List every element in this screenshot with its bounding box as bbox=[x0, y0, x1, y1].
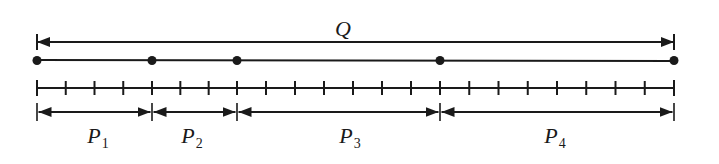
segment-labels: P1P2P3P4 bbox=[86, 123, 565, 151]
points-line bbox=[33, 56, 679, 65]
segment-label-p3: P3 bbox=[338, 123, 360, 151]
tick-scale bbox=[37, 80, 674, 96]
point-dot bbox=[670, 56, 679, 65]
partition-diagram: Q P1P2P3P4 bbox=[0, 0, 719, 164]
total-q-arrow bbox=[37, 34, 674, 50]
segment-label-p4: P4 bbox=[543, 123, 565, 151]
segment-arrows bbox=[37, 103, 674, 121]
total-q-label: Q bbox=[335, 16, 351, 41]
point-dot bbox=[233, 56, 242, 65]
point-dot bbox=[33, 56, 42, 65]
segment-label-p2: P2 bbox=[180, 123, 202, 151]
point-dot bbox=[436, 56, 445, 65]
segment-label-p1: P1 bbox=[86, 123, 108, 151]
point-dot bbox=[148, 56, 157, 65]
